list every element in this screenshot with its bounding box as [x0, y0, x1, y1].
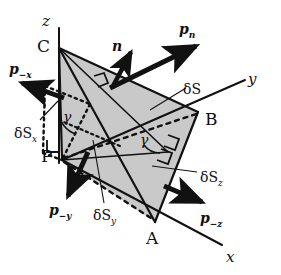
area-label-dSy-base: δS — [93, 207, 111, 223]
vertex-label-P: P — [41, 148, 52, 165]
axis-label-x: x — [226, 250, 234, 265]
vector-label-pn-sub: n — [189, 30, 196, 40]
angle-label-gamma-right: γ — [140, 133, 148, 147]
dotted-left-edge — [43, 86, 45, 153]
area-label-dSx-sub: x — [32, 134, 37, 144]
vector-label-pn-base: p — [179, 21, 189, 37]
leader-delta-Sx — [40, 101, 58, 120]
vector-label-n: n — [112, 39, 122, 53]
area-label-delta-S: δS — [183, 82, 201, 96]
area-label-dSz-base: δS — [200, 169, 218, 185]
angle-label-gamma-left: γ — [63, 110, 71, 124]
vector-label-pmx-base: p — [9, 61, 19, 77]
vertex-label-A: A — [146, 230, 158, 247]
area-label-delta-Sx: δSx — [14, 126, 37, 144]
vector-label-pmx-sub: −x — [19, 70, 32, 80]
vector-label-pmy-base: p — [49, 202, 59, 218]
vector-label-p-minus-z: p−z — [200, 211, 222, 229]
area-label-delta-Sy: δSy — [93, 208, 116, 226]
axis-label-y: y — [248, 72, 256, 87]
vector-label-p-minus-y: p−y — [49, 203, 72, 221]
vector-arrow-p-minus-z — [164, 186, 202, 202]
vector-label-n-text: n — [112, 38, 122, 54]
area-label-delta-Sz: δSz — [200, 170, 223, 188]
vector-label-pmy-sub: −y — [59, 211, 72, 221]
vector-label-pmz-base: p — [200, 210, 210, 226]
vector-label-pn: pn — [179, 22, 195, 40]
vector-label-pmz-sub: −z — [210, 219, 223, 229]
figure-canvas: z y x C B A P n pn p−x p−y p−z δS δSx δS… — [0, 0, 281, 275]
vertex-label-B: B — [205, 111, 218, 128]
area-label-dS-base: δS — [183, 81, 201, 97]
vertex-label-C: C — [37, 38, 50, 55]
axis-label-z: z — [42, 14, 50, 29]
area-label-dSx-base: δS — [14, 125, 32, 141]
vector-label-p-minus-x: p−x — [9, 62, 32, 80]
area-label-dSz-sub: z — [218, 178, 223, 188]
area-label-dSy-sub: y — [111, 216, 116, 226]
